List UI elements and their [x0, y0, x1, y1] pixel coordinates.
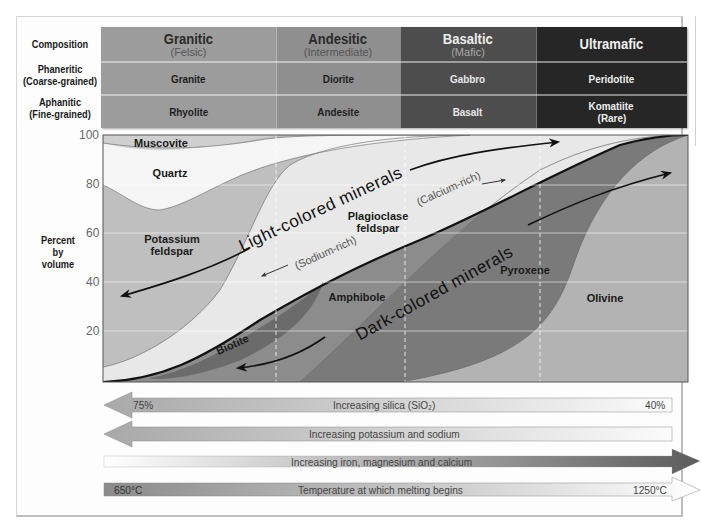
- plagioclase-label-1: Plagioclase: [348, 210, 409, 222]
- potassium-feldspar-label-1: Potassium: [144, 233, 200, 245]
- melting-label: Temperature at which melting begins: [298, 484, 463, 496]
- potassium-sodium-label: Increasing potassium and sodium: [309, 428, 460, 440]
- quartz-label: Quartz: [153, 167, 188, 179]
- muscovite-label: Muscovite: [134, 137, 188, 149]
- amphibole-label: Amphibole: [329, 291, 386, 303]
- plagioclase-label-2: feldspar: [357, 222, 401, 234]
- melting-right-value: 1250°C: [633, 484, 667, 496]
- iron-magnesium-calcium-label: Increasing iron, magnesium and calcium: [291, 456, 472, 468]
- mineral-composition-chart: Muscovite Quartz Potassium feldspar Plag…: [0, 0, 702, 526]
- potassium-feldspar-label-2: feldspar: [151, 245, 195, 257]
- silica-label: Increasing silica (SiO₂): [333, 399, 435, 411]
- silica-left-value: 75%: [133, 399, 153, 411]
- olivine-label: Olivine: [587, 292, 624, 304]
- melting-left-value: 650°C: [114, 484, 142, 496]
- pyroxene-label: Pyroxene: [500, 264, 550, 276]
- silica-right-value: 40%: [645, 399, 665, 411]
